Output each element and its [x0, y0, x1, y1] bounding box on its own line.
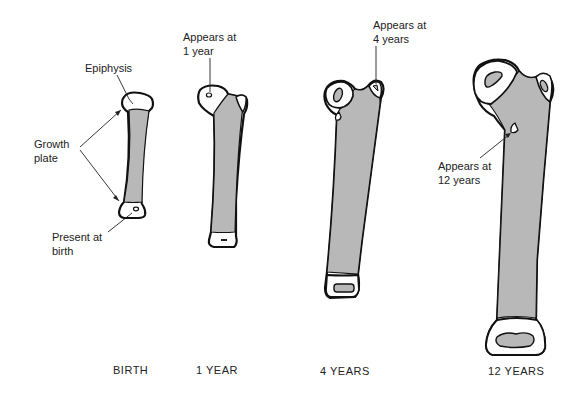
caption-4-years: 4 YEARS — [320, 365, 370, 377]
label-appears-12-years-1: Appears at — [438, 160, 491, 172]
caption-1-year: 1 YEAR — [196, 364, 238, 376]
label-present-at-birth-2: birth — [52, 245, 73, 257]
label-present-at-birth-1: Present at — [52, 231, 102, 243]
caption-12-years: 12 YEARS — [488, 365, 544, 377]
bone-12-years — [474, 60, 554, 355]
label-appears-1-year-2: 1 year — [183, 45, 214, 57]
label-epiphysis: Epiphysis — [85, 62, 133, 74]
label-appears-1-year-1: Appears at — [183, 31, 236, 43]
label-appears-4-years-1: Appears at — [373, 19, 426, 31]
bone-1-year — [198, 86, 247, 248]
caption-birth: BIRTH — [113, 364, 148, 376]
label-appears-12-years-2: 12 years — [438, 174, 481, 186]
bone-birth — [119, 93, 153, 219]
arrowhead-icon — [113, 195, 119, 201]
femur-ossification-diagram: Epiphysis Growth plate Present at birth … — [0, 0, 583, 393]
label-appears-4-years-2: 4 years — [373, 33, 410, 45]
label-growth-plate-2: plate — [34, 152, 58, 164]
bone-4-years — [324, 81, 383, 298]
arrow-growth-plate-top — [80, 110, 121, 147]
arrow-growth-plate-bottom — [80, 150, 119, 201]
label-growth-plate-1: Growth — [34, 138, 69, 150]
